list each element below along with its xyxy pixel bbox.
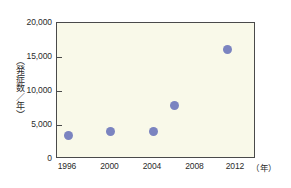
y-tick-label-1: 5,000 xyxy=(31,119,52,129)
x-tick-label-2012: 2012 xyxy=(226,161,245,171)
y-tick-label-3: 15,000 xyxy=(27,51,52,61)
chart-container: （発症数／年） 0 5,000 10,000 15,000 20,000 199… xyxy=(0,0,291,188)
data-point-2011 xyxy=(223,45,232,54)
y-tick-mark-5000 xyxy=(57,125,62,126)
y-tick-label-4: 20,000 xyxy=(27,17,52,27)
data-point-1996 xyxy=(64,131,73,140)
y-tick-mark-15000 xyxy=(57,57,62,58)
data-point-2004 xyxy=(149,127,158,136)
x-tick-label-2000: 2000 xyxy=(100,161,119,171)
data-point-2000 xyxy=(106,127,115,136)
y-tick-mark-10000 xyxy=(57,91,62,92)
data-point-2006 xyxy=(170,101,179,110)
y-tick-label-2: 10,000 xyxy=(27,85,52,95)
x-tick-label-2008: 2008 xyxy=(185,161,204,171)
x-axis-unit-label: （年） xyxy=(251,161,278,173)
plot-area xyxy=(56,22,255,158)
x-axis-tick-labels: 1996 2000 2004 2008 2012 （年） xyxy=(0,161,291,177)
x-tick-label-1996: 1996 xyxy=(58,161,77,171)
x-tick-label-2004: 2004 xyxy=(143,161,162,171)
y-axis-tick-labels: 0 5,000 10,000 15,000 20,000 xyxy=(0,22,52,158)
